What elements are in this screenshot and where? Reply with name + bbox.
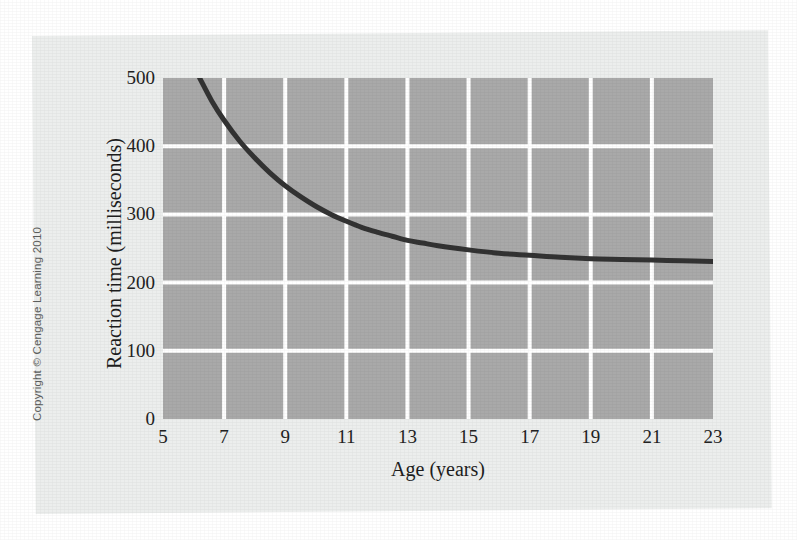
x-tick-label: 19 <box>569 427 613 446</box>
x-tick-label: 7 <box>202 427 246 446</box>
x-tick-label: 23 <box>691 427 735 446</box>
x-axis-tick-labels: 57911131517192123 <box>0 427 797 457</box>
scanned-page: Copyright © Cengage Learning 2010 010020… <box>0 0 797 540</box>
y-tick-label: 500 <box>109 68 155 87</box>
x-tick-label: 9 <box>263 427 307 446</box>
x-tick-label: 15 <box>447 427 491 446</box>
x-tick-label: 11 <box>324 427 368 446</box>
y-axis-title: Reaction time (milliseconds) <box>103 104 126 404</box>
reaction-time-chart: 0100200300400500 57911131517192123 Age (… <box>0 0 797 540</box>
reaction-time-curve <box>163 78 713 419</box>
x-tick-label: 5 <box>141 427 185 446</box>
x-tick-label: 17 <box>508 427 552 446</box>
x-axis-title: Age (years) <box>163 458 713 481</box>
plot-area <box>163 78 713 419</box>
y-tick-label: 0 <box>109 409 155 428</box>
x-tick-label: 21 <box>630 427 674 446</box>
x-tick-label: 13 <box>385 427 429 446</box>
